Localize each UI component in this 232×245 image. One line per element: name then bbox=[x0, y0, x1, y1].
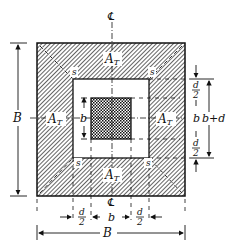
right-d-top-num: d bbox=[193, 80, 199, 90]
bottom-d-right-num: d bbox=[137, 207, 143, 217]
corner-label-tr: s bbox=[150, 67, 155, 77]
corner-label-br: s bbox=[146, 158, 151, 168]
footing-width-bottom-label: B bbox=[102, 226, 112, 240]
footing-diagram: AT AT AT AT s s s s ℄ ℄ b B d 2 b bbox=[0, 0, 232, 245]
centerline-symbol-bottom: ℄ bbox=[107, 196, 115, 209]
footing-width-left-label: B bbox=[12, 111, 22, 125]
right-d-bot-den: 2 bbox=[192, 148, 199, 158]
bottom-d-right-den: 2 bbox=[136, 217, 143, 227]
bottom-d-left-num: d bbox=[79, 207, 85, 217]
right-d-top-den: 2 bbox=[192, 90, 199, 100]
corner-label-bl: s bbox=[76, 158, 81, 168]
right-b-label: b bbox=[193, 112, 200, 125]
corner-label-tl: s bbox=[72, 67, 77, 77]
bottom-b-label: b bbox=[108, 211, 115, 224]
column-width-label: b bbox=[80, 112, 87, 125]
right-total-label: b+d bbox=[202, 112, 225, 125]
centerline-symbol-top: ℄ bbox=[107, 10, 115, 23]
right-d-bot-num: d bbox=[193, 138, 199, 148]
bottom-d-left-den: 2 bbox=[78, 217, 85, 227]
column bbox=[91, 98, 131, 139]
